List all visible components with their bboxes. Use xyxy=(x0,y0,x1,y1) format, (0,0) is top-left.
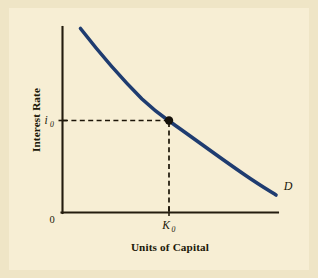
x-axis-title: Units of Capital xyxy=(131,241,209,253)
equilibrium-point-marker xyxy=(165,116,173,124)
demand-curve-plot: Interest Rate Units of Capital 0 i 0 K 0… xyxy=(0,0,318,278)
interest-rate-value-subscript: 0 xyxy=(50,120,54,129)
demand-curve-path xyxy=(81,29,277,196)
capital-quantity-label: K xyxy=(161,219,171,231)
demand-curve-label: D xyxy=(283,179,293,193)
capital-quantity-subscript: 0 xyxy=(172,225,176,234)
y-axis-title: Interest Rate xyxy=(30,88,42,152)
economics-figure: Interest Rate Units of Capital 0 i 0 K 0… xyxy=(0,0,318,278)
origin-label: 0 xyxy=(49,214,54,225)
interest-rate-value-label: i xyxy=(44,114,47,126)
